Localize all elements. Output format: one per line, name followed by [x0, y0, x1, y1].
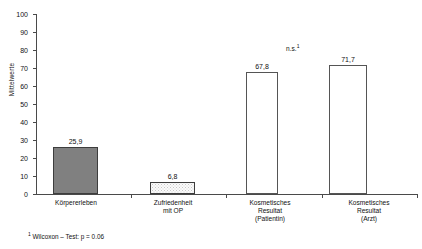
x-tick-4	[417, 194, 418, 198]
bar-value-label: 67,8	[255, 63, 269, 71]
x-tick-1	[131, 194, 132, 198]
footnote-superscript: 1	[28, 231, 31, 237]
y-tick-0: 0	[33, 194, 37, 195]
plot-area: 100 90 80 70 60 50 40 30 20 10 0 25,9 6,…	[36, 14, 418, 194]
bar-chart-figure: Mittelwerte 100 90 80 70 60 50 40 30 20 …	[0, 0, 422, 249]
x-axis-line	[36, 194, 418, 195]
bar-value-label: 6,8	[168, 173, 178, 181]
y-tick-10: 10	[33, 176, 37, 177]
y-tick-40: 40	[33, 122, 37, 123]
y-tick-90: 90	[33, 32, 37, 33]
bar-zufriedenheit-mit-op[interactable]: 6,8	[150, 182, 195, 194]
y-tick-100: 100	[33, 14, 37, 15]
footnote-text: Wilcoxon – Test: p = 0.06	[33, 233, 104, 240]
y-tick-50: 50	[33, 104, 37, 105]
significance-superscript: 1	[297, 43, 300, 49]
significance-annotation: n.s.1	[286, 42, 299, 53]
category-label-kosmetisches-resultat-arzt: Kosmetisches Resultat (Arzt)	[323, 199, 415, 224]
y-tick-80: 80	[33, 50, 37, 51]
footnote: 1 Wilcoxon – Test: p = 0.06	[28, 230, 104, 241]
bar-value-label: 71,7	[341, 56, 355, 64]
x-tick-2	[226, 194, 227, 198]
y-tick-20: 20	[33, 158, 37, 159]
category-label-kosmetisches-resultat-patientin: Kosmetisches Resultat (Patientin)	[224, 199, 316, 224]
bar-kosmetisches-resultat-patientin[interactable]: 67,8	[246, 72, 278, 194]
bar-koerpererleben[interactable]: 25,9	[53, 147, 98, 194]
bar-kosmetisches-resultat-arzt[interactable]: 71,7	[329, 65, 367, 194]
significance-text: n.s.	[286, 45, 297, 52]
y-tick-30: 30	[33, 140, 37, 141]
y-tick-70: 70	[33, 68, 37, 69]
category-label-koerpererleben: Körpererleben	[33, 199, 119, 207]
category-label-zufriedenheit-mit-op: Zufriedenheit mit OP	[130, 199, 216, 215]
y-tick-60: 60	[33, 86, 37, 87]
x-tick-3	[322, 194, 323, 198]
y-axis-title: Mittelwerte	[8, 45, 15, 115]
bar-value-label: 25,9	[69, 138, 83, 146]
